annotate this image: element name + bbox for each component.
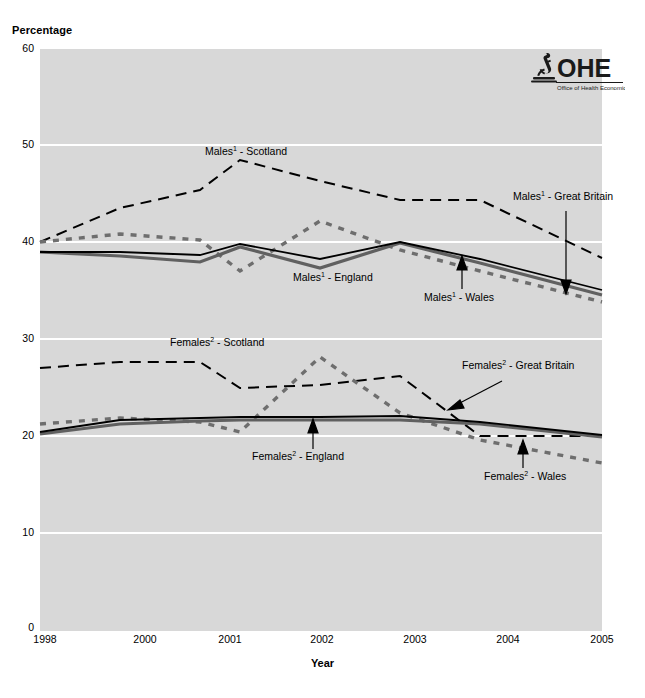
label-males-great-britain: Males1 - Great Britain bbox=[513, 190, 613, 202]
x-tick-2003: 2003 bbox=[385, 633, 445, 645]
x-tick-2001: 2001 bbox=[200, 633, 260, 645]
y-tick-40: 40 bbox=[2, 235, 34, 247]
label-males-england-text: Males1 - England bbox=[293, 271, 373, 283]
y-axis-title: Percentage bbox=[12, 24, 72, 36]
chart-figure: Percentage bbox=[0, 0, 645, 698]
label-females-great-britain: Females2 - Great Britain bbox=[462, 359, 574, 371]
y-tick-30: 30 bbox=[2, 332, 34, 344]
label-males-wales: Males1 - Wales bbox=[424, 291, 494, 303]
y-tick-10: 10 bbox=[2, 526, 34, 538]
label-females-wales-text: Females2 - Wales bbox=[484, 470, 566, 482]
x-tick-2005: 2005 bbox=[572, 633, 632, 645]
y-tick-0: 0 bbox=[2, 621, 34, 633]
label-females-scotland-text: Females2 - Scotland bbox=[170, 336, 264, 348]
label-males-great-britain-text: Males1 - Great Britain bbox=[513, 190, 613, 202]
svg-text:OHE: OHE bbox=[557, 54, 611, 82]
label-males-wales-text: Males1 - Wales bbox=[424, 291, 494, 303]
x-axis-title: Year bbox=[0, 657, 645, 669]
y-tick-60: 60 bbox=[2, 42, 34, 54]
x-tick-2000: 2000 bbox=[115, 633, 175, 645]
label-females-great-britain-text: Females2 - Great Britain bbox=[462, 359, 574, 371]
label-females-england: Females2 - England bbox=[252, 450, 344, 462]
ohe-logo: OHE Office of Health Economics bbox=[529, 50, 625, 92]
label-males-scotland-text: Males1 - Scotland bbox=[205, 145, 287, 157]
x-tick-2004: 2004 bbox=[478, 633, 538, 645]
label-males-england: Males1 - England bbox=[293, 271, 373, 283]
label-females-england-text: Females2 - England bbox=[252, 450, 344, 462]
x-tick-2002: 2002 bbox=[292, 633, 352, 645]
ohe-acronym: OHE bbox=[557, 54, 611, 82]
y-tick-50: 50 bbox=[2, 138, 34, 150]
label-males-scotland: Males1 - Scotland bbox=[205, 145, 287, 157]
label-females-wales: Females2 - Wales bbox=[484, 470, 566, 482]
x-tick-1998: 1998 bbox=[15, 633, 75, 645]
y-tick-20: 20 bbox=[2, 429, 34, 441]
microscope-icon bbox=[531, 53, 557, 83]
ohe-full-name: Office of Health Economics bbox=[557, 85, 625, 91]
plot-area bbox=[40, 48, 602, 631]
label-females-scotland: Females2 - Scotland bbox=[170, 336, 264, 348]
